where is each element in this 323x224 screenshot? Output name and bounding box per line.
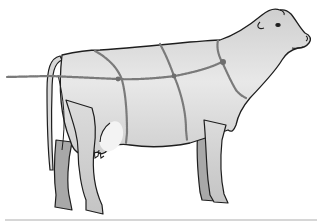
cow-illustration: Line illustration of a standing cow in p…	[0, 0, 323, 224]
eye-icon	[276, 24, 280, 27]
ground-line	[5, 219, 317, 221]
cow-drawing	[0, 0, 323, 224]
